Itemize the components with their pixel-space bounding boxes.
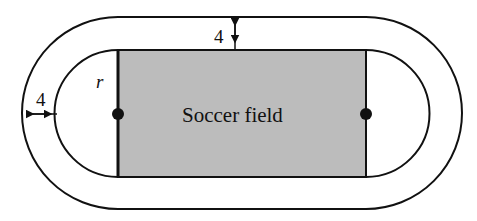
top-width-label: 4 (214, 26, 224, 47)
field-label: Soccer field (182, 103, 283, 127)
left-center-dot (112, 108, 124, 120)
right-center-dot (360, 108, 372, 120)
track-diagram: 4 4 r Soccer field (0, 0, 477, 221)
radius-label: r (96, 71, 104, 92)
left-width-label: 4 (36, 89, 46, 110)
